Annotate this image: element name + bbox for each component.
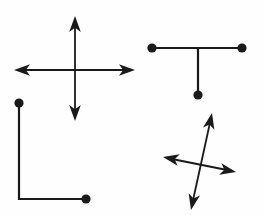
shape-elbow: [14, 98, 90, 203]
dot-elbow-right: [81, 194, 90, 203]
steep-diagonal-line: [192, 118, 211, 205]
line-figures-diagram: Four line-segment figures: [0, 0, 264, 215]
shape-double-arrow-cross: [14, 16, 135, 121]
dot-bar-left: [147, 43, 156, 52]
dot-bar-right: [237, 43, 246, 52]
dot-stem-bottom: [193, 90, 202, 99]
shape-tee: [147, 43, 246, 99]
shape-rotated-arrow-cross: [163, 113, 236, 210]
dot-elbow-top: [14, 98, 23, 107]
